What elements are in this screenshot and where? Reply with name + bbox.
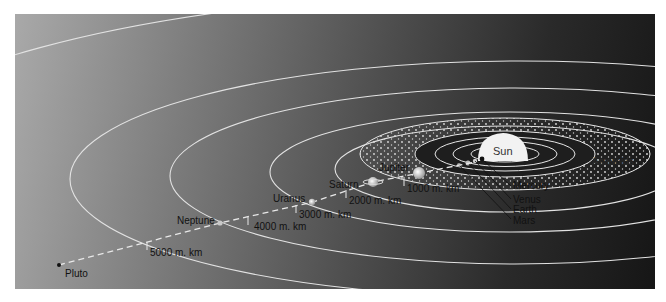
label-earth: Earth bbox=[513, 205, 537, 215]
label-asteroids: Asteroids bbox=[592, 157, 634, 167]
saturn-icon bbox=[363, 177, 383, 187]
jupiter-icon bbox=[413, 167, 425, 179]
orbit-graphics bbox=[15, 14, 655, 289]
label-mars: Mars bbox=[513, 216, 535, 226]
label-5000-mkm: 5000 m. km bbox=[150, 248, 202, 258]
uranus-icon bbox=[309, 199, 315, 205]
label-4000-mkm: 4000 m. km bbox=[254, 222, 306, 232]
label-pluto: Pluto bbox=[65, 269, 88, 279]
label-saturn: Saturn bbox=[329, 180, 358, 190]
label-mercury: Mercury bbox=[513, 181, 549, 191]
label-sun: Sun bbox=[493, 146, 513, 157]
label-neptune: Neptune bbox=[177, 216, 215, 226]
pluto-icon bbox=[57, 263, 61, 267]
label-2000-mkm: 2000 m. km bbox=[349, 196, 401, 206]
label-1000-mkm: 1000 m. km bbox=[407, 184, 459, 194]
solar-system-diagram: Sun Mercury Venus Earth Mars Asteroids J… bbox=[15, 14, 655, 289]
label-uranus: Uranus bbox=[273, 194, 305, 204]
neptune-icon bbox=[217, 220, 222, 225]
label-jupiter: Jupiter bbox=[379, 163, 409, 173]
label-3000-mkm: 3000 m. km bbox=[299, 210, 351, 220]
